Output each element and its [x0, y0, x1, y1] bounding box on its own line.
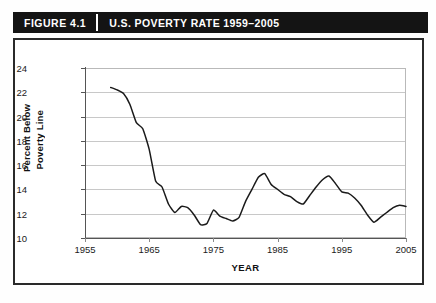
poverty-rate-line	[0, 0, 436, 303]
figure-page: FIGURE 4.1 U.S. POVERTY RATE 1959–2005 1…	[0, 0, 436, 303]
y-axis-title: Percent Below Poverty Line	[20, 100, 54, 210]
y-axis-title-line1: Percent Below	[21, 104, 32, 172]
y-axis-title-line2: Poverty Line	[34, 110, 45, 169]
x-axis-title: YEAR	[85, 262, 406, 273]
series-path	[111, 87, 406, 224]
